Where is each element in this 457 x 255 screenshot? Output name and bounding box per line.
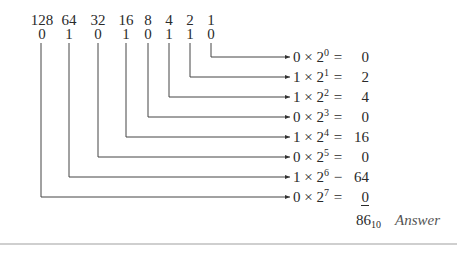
term-5: 0 × 25=0 [293,149,369,165]
answer-base: 10 [371,219,381,230]
answer-row: 8610Answer [356,212,440,229]
answer-label: Answer [395,212,440,228]
term-0: 0 × 20=0 [293,49,369,65]
answer-value: 86 [356,212,371,228]
term-6: 1 × 26−64 [293,169,369,185]
divider-rule [0,243,457,245]
term-7: 0 × 27=0 [293,189,369,205]
term-4: 1 × 24=16 [293,129,369,145]
term-3: 0 × 23=0 [293,109,369,125]
term-1: 1 × 21=2 [293,69,369,85]
term-2: 1 × 22=4 [293,89,369,105]
